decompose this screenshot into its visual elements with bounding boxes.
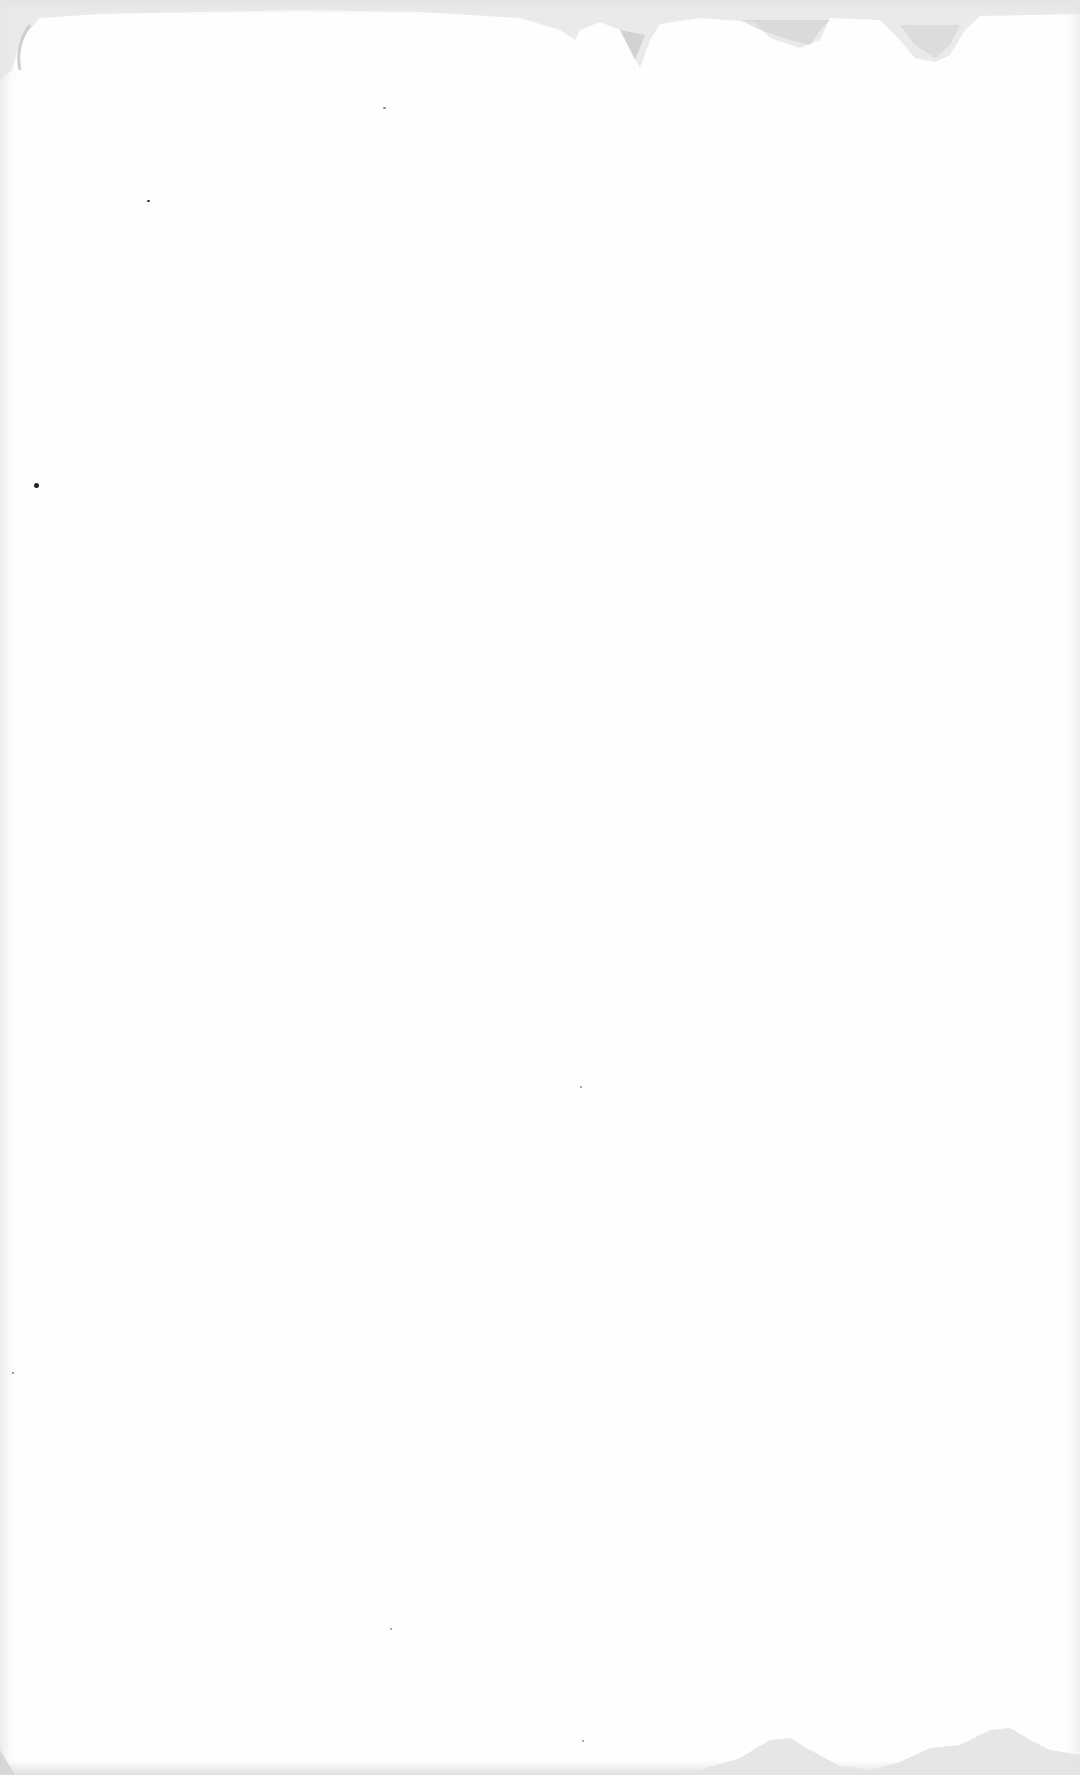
blank-paper-page [0, 0, 1080, 1775]
ink-speck [147, 200, 150, 202]
ink-speck [580, 1086, 582, 1088]
ink-speck [390, 1628, 392, 1630]
ink-speck [582, 1740, 584, 1742]
ink-speck [383, 107, 386, 109]
bottom-water-stain [0, 1700, 1080, 1775]
ink-speck [12, 1372, 14, 1374]
ink-speck [34, 483, 39, 488]
top-water-stain [0, 0, 1080, 90]
